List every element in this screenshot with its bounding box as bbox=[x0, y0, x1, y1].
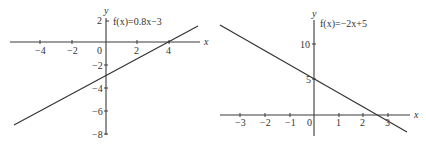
left-y-tick-label: −8 bbox=[92, 129, 103, 140]
right-x-tick-label: 0 bbox=[307, 117, 312, 128]
right-y-axis-label: y bbox=[311, 8, 317, 19]
right-x-tick-label: −2 bbox=[260, 117, 271, 128]
left-y-tick-label: −4 bbox=[92, 83, 103, 94]
right-x-tick-label: 1 bbox=[336, 117, 341, 128]
left-x-tick-label: −2 bbox=[67, 45, 78, 56]
left-graph: x y −4 −2 0 2 4 2 −2 −4 −6 −8 f(x)=0.8x−… bbox=[10, 5, 209, 140]
right-y-tick-label: 10 bbox=[300, 39, 310, 50]
right-x-tick-label: 2 bbox=[360, 117, 365, 128]
left-function-label: f(x)=0.8x−3 bbox=[113, 16, 162, 28]
right-x-tick-label: −3 bbox=[235, 117, 246, 128]
left-x-tick-label: 2 bbox=[134, 45, 139, 56]
left-x-tick-label: 0 bbox=[97, 45, 102, 56]
right-x-axis-label: x bbox=[413, 109, 419, 120]
left-x-tick-label: −4 bbox=[35, 45, 46, 56]
left-y-tick-label: −2 bbox=[92, 60, 103, 71]
left-y-tick-label: −6 bbox=[92, 106, 103, 117]
right-graph: x y −3 −2 −1 0 1 2 3 10 5 f(x)=−2x+5 bbox=[220, 8, 419, 136]
left-y-axis-label: y bbox=[103, 5, 109, 16]
left-y-tick-label: 2 bbox=[97, 15, 102, 26]
left-x-tick-label: 4 bbox=[166, 45, 171, 56]
left-x-axis-label: x bbox=[203, 36, 209, 47]
right-x-tick-label: −1 bbox=[285, 117, 296, 128]
right-function-label: f(x)=−2x+5 bbox=[320, 18, 367, 30]
graphs-canvas: x y −4 −2 0 2 4 2 −2 −4 −6 −8 f(x)=0.8x−… bbox=[0, 0, 426, 144]
